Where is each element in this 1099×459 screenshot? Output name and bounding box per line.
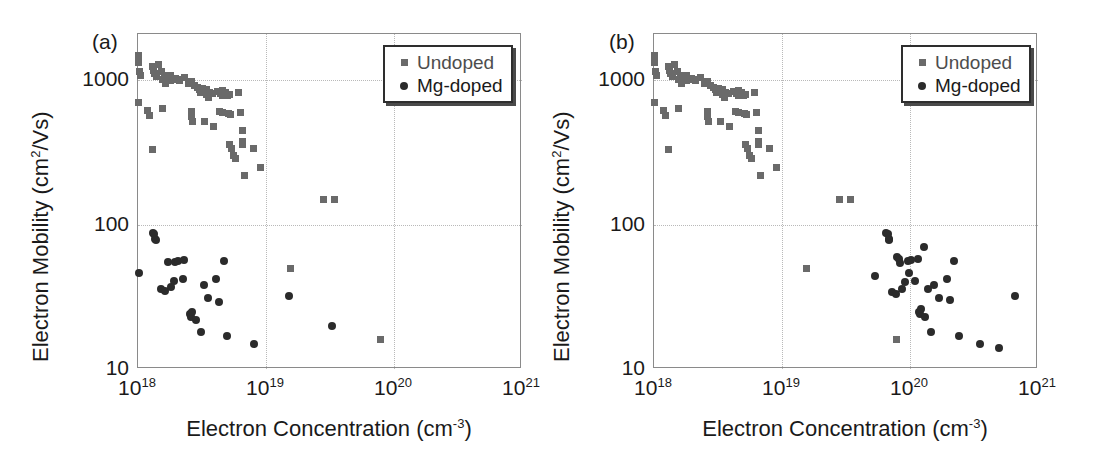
panel-b-x-axis-title: Electron Concentration (cm-3) bbox=[653, 416, 1037, 442]
data-point-undoped bbox=[773, 164, 780, 171]
data-point-mgdoped bbox=[895, 255, 903, 263]
data-point-mgdoped bbox=[215, 298, 223, 306]
legend-label-mgdoped: Mg-doped bbox=[935, 75, 1021, 97]
data-point-mgdoped bbox=[188, 308, 196, 316]
data-point-undoped bbox=[755, 127, 762, 134]
x-tick-base: 10 bbox=[634, 376, 657, 399]
x-tick-base: 10 bbox=[890, 376, 913, 399]
panel-a-legend: Undoped Mg-doped bbox=[383, 45, 513, 103]
data-point-mgdoped bbox=[914, 255, 922, 263]
y-gridline bbox=[654, 225, 1038, 226]
data-point-mgdoped bbox=[924, 285, 932, 293]
y-axis-title-tail: /Vs) bbox=[28, 111, 53, 150]
data-point-undoped bbox=[671, 61, 678, 68]
data-point-undoped bbox=[159, 105, 166, 112]
data-point-mgdoped bbox=[179, 275, 187, 283]
x-tick-label: 1018 bbox=[118, 376, 156, 400]
x-axis-title-text: Electron Concentration (cm bbox=[702, 416, 969, 441]
data-point-mgdoped bbox=[200, 281, 208, 289]
data-point-mgdoped bbox=[920, 243, 928, 251]
data-point-mgdoped bbox=[212, 275, 220, 283]
data-point-mgdoped bbox=[328, 322, 336, 330]
data-point-mgdoped bbox=[250, 340, 258, 348]
data-point-undoped bbox=[757, 172, 764, 179]
legend-label-undoped: Undoped bbox=[417, 52, 494, 74]
x-tick-base: 10 bbox=[502, 376, 525, 399]
data-point-undoped bbox=[232, 155, 239, 162]
data-point-mgdoped bbox=[285, 292, 293, 300]
legend-label-mgdoped: Mg-doped bbox=[417, 75, 503, 97]
x-tick-base: 10 bbox=[374, 376, 397, 399]
x-gridline bbox=[782, 34, 783, 369]
data-point-undoped bbox=[287, 265, 294, 272]
square-marker-icon bbox=[391, 59, 417, 66]
data-point-undoped bbox=[146, 112, 153, 119]
data-point-undoped bbox=[331, 196, 338, 203]
data-point-undoped bbox=[893, 336, 900, 343]
y-gridline bbox=[138, 225, 522, 226]
panel-a-label: (a) bbox=[92, 30, 118, 54]
x-tick-exponent: 19 bbox=[269, 375, 283, 390]
data-point-undoped bbox=[803, 265, 810, 272]
data-point-undoped bbox=[651, 59, 658, 66]
x-tick-base: 10 bbox=[118, 376, 141, 399]
y-axis-title-tail: /Vs) bbox=[549, 111, 574, 150]
y-axis-title-sup: 2 bbox=[549, 151, 564, 158]
x-tick-exponent: 21 bbox=[525, 375, 539, 390]
data-point-undoped bbox=[135, 52, 142, 59]
data-point-undoped bbox=[241, 172, 248, 179]
data-point-mgdoped bbox=[976, 340, 984, 348]
x-tick-exponent: 18 bbox=[141, 375, 155, 390]
data-point-undoped bbox=[742, 91, 749, 98]
data-point-undoped bbox=[135, 59, 142, 66]
data-point-mgdoped bbox=[1011, 292, 1019, 300]
data-point-undoped bbox=[662, 112, 669, 119]
data-point-undoped bbox=[237, 109, 244, 116]
data-point-undoped bbox=[651, 52, 658, 59]
panel-a-y-axis-title: Electron Mobility (cm2/Vs) bbox=[28, 111, 54, 362]
data-point-undoped bbox=[228, 145, 235, 152]
legend-entry-mgdoped: Mg-doped bbox=[909, 74, 1021, 97]
data-point-mgdoped bbox=[220, 257, 228, 265]
y-axis-title-sup: 2 bbox=[28, 151, 43, 158]
x-tick-label: 1020 bbox=[890, 376, 928, 400]
data-point-undoped bbox=[201, 118, 208, 125]
data-point-mgdoped bbox=[197, 328, 205, 336]
panel-b-legend: Undoped Mg-doped bbox=[901, 45, 1031, 103]
x-tick-label: 1021 bbox=[502, 376, 540, 400]
data-point-mgdoped bbox=[955, 332, 963, 340]
x-axis-title-sup: -3 bbox=[969, 416, 981, 431]
data-point-undoped bbox=[239, 127, 246, 134]
data-point-undoped bbox=[847, 196, 854, 203]
data-point-undoped bbox=[210, 123, 217, 130]
x-tick-exponent: 19 bbox=[785, 375, 799, 390]
data-point-mgdoped bbox=[921, 313, 929, 321]
square-marker-icon bbox=[909, 59, 935, 66]
data-point-undoped bbox=[235, 89, 242, 96]
data-point-mgdoped bbox=[135, 269, 143, 277]
panel-a-x-axis-title: Electron Concentration (cm-3) bbox=[137, 416, 521, 442]
panel-b: (b) Electron Mobility (cm2/Vs) Electron … bbox=[549, 0, 1098, 459]
y-axis-title-text: Electron Mobility (cm bbox=[28, 158, 53, 362]
data-point-mgdoped bbox=[192, 316, 200, 324]
x-tick-base: 10 bbox=[1018, 376, 1041, 399]
y-tick-label: 100 bbox=[577, 212, 645, 236]
circle-marker-icon bbox=[391, 82, 417, 90]
data-point-mgdoped bbox=[871, 272, 879, 280]
data-point-mgdoped bbox=[180, 256, 188, 264]
y-tick-label: 1000 bbox=[577, 67, 645, 91]
y-tick-label: 100 bbox=[61, 212, 129, 236]
panel-a: (a) Electron Mobility (cm2/Vs) Electron … bbox=[0, 0, 549, 459]
data-point-undoped bbox=[748, 155, 755, 162]
x-axis-title-tail: ) bbox=[980, 416, 987, 441]
data-point-undoped bbox=[155, 61, 162, 68]
data-point-undoped bbox=[743, 111, 750, 118]
x-tick-exponent: 20 bbox=[913, 375, 927, 390]
x-tick-label: 1018 bbox=[634, 376, 672, 400]
x-axis-title-tail: ) bbox=[464, 416, 471, 441]
x-axis-title-sup: -3 bbox=[453, 416, 465, 431]
data-point-undoped bbox=[320, 196, 327, 203]
data-point-undoped bbox=[135, 99, 142, 106]
figure-root: (a) Electron Mobility (cm2/Vs) Electron … bbox=[0, 0, 1099, 459]
legend-label-undoped: Undoped bbox=[935, 52, 1012, 74]
